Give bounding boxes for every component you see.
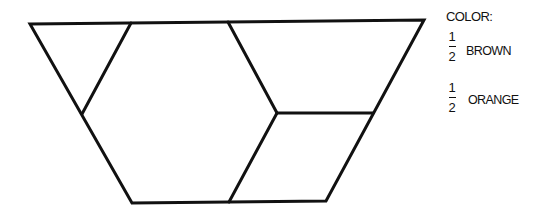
numerator: 1 bbox=[446, 30, 458, 43]
fraction-bar bbox=[449, 97, 456, 98]
color-name-brown: BROWN bbox=[466, 45, 511, 58]
color-legend: COLOR: 1 2 BROWN 1 2 ORANGE bbox=[445, 0, 547, 220]
denominator: 2 bbox=[446, 50, 458, 63]
fraction-brown: 1 2 bbox=[446, 30, 458, 63]
fraction-bar bbox=[449, 46, 456, 47]
triangle-right-edge bbox=[82, 23, 131, 114]
legend-title: COLOR: bbox=[446, 10, 492, 24]
hexagon-upper-right-edge bbox=[228, 22, 277, 113]
color-name-orange: ORANGE bbox=[468, 94, 519, 107]
trapezoid-diagram bbox=[0, 0, 440, 220]
hexagon-lower-right-edge bbox=[229, 113, 277, 202]
denominator: 2 bbox=[446, 101, 458, 114]
fraction-orange: 1 2 bbox=[446, 81, 458, 114]
numerator: 1 bbox=[446, 81, 458, 94]
